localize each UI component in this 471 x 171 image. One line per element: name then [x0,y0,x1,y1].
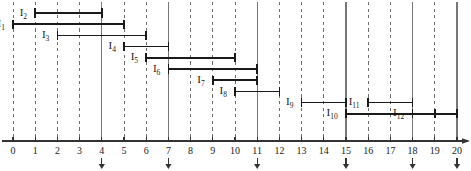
axis-tick-label-4: 4 [99,146,104,156]
axis-tick-label-0: 0 [11,146,16,156]
axis-tick-label-14: 14 [319,146,329,156]
axis-tick-label-7: 7 [166,146,171,156]
interval-label-I3: I3 [42,29,49,44]
down-arrow-icon-7 [165,164,171,169]
axis-tick-label-1: 1 [33,146,38,156]
down-arrow-icon-18 [410,164,416,169]
interval-label-index-I6: 6 [157,68,161,77]
interval-label-index-I4: 4 [112,45,116,54]
axis-tick-label-8: 8 [188,146,193,156]
interval-label-index-I3: 3 [46,34,50,43]
interval-label-index-I2: 2 [23,12,27,21]
axis-tick-label-18: 18 [408,146,418,156]
interval-diagram: 01234567891011121314151617181920I1I2I3I4… [0,0,471,171]
axis-tick-label-5: 5 [122,146,127,156]
interval-label-I11: I11 [349,96,360,111]
interval-label-index-I11: 11 [352,101,359,110]
interval-label-I5: I5 [131,51,138,66]
axis-tick-label-11: 11 [252,146,262,156]
down-arrow-icon-20 [454,164,460,169]
interval-label-I10: I10 [327,107,338,122]
down-arrow-icon-4 [99,164,105,169]
axis-tick-label-9: 9 [210,146,215,156]
axis-arrowhead-icon [462,138,470,144]
axis-tick-label-10: 10 [230,146,240,156]
down-arrow-icon-11 [254,164,260,169]
axis-tick-label-19: 19 [430,146,440,156]
axis-tick-label-13: 13 [297,146,307,156]
interval-label-I7: I7 [197,74,204,89]
axis-tick-label-16: 16 [363,146,373,156]
interval-label-I8: I8 [220,85,227,100]
down-arrow-icon-15 [343,164,349,169]
interval-label-index-I5: 5 [134,56,138,65]
axis-tick-label-17: 17 [385,146,395,156]
interval-label-index-I7: 7 [201,79,205,88]
interval-label-I6: I6 [153,63,160,78]
axis-tick-label-12: 12 [274,146,284,156]
interval-label-I2: I2 [20,7,27,22]
interval-label-I4: I4 [109,40,116,55]
axis-tick-label-6: 6 [144,146,149,156]
interval-label-index-I9: 9 [290,101,294,110]
interval-label-index-I12: 12 [397,112,405,121]
interval-label-I1: I1 [0,18,5,33]
interval-label-index-I10: 10 [330,112,338,121]
axis-tick-label-20: 20 [452,146,462,156]
axis-tick-label-15: 15 [341,146,351,156]
interval-label-index-I8: 8 [223,90,227,99]
axis-tick-label-2: 2 [55,146,60,156]
interval-label-I9: I9 [286,96,293,111]
axis-tick-label-3: 3 [77,146,82,156]
interval-label-index-I1: 1 [1,23,5,32]
interval-label-I12: I12 [393,107,404,122]
